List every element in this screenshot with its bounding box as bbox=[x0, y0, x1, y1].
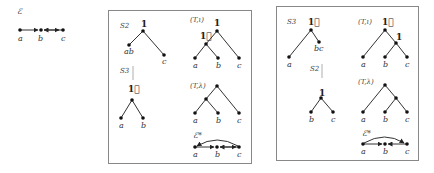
node-label: c bbox=[237, 150, 242, 159]
leaf-label: a bbox=[193, 61, 198, 70]
tree-root-label: 1⃗ bbox=[128, 84, 140, 94]
node-label: c bbox=[405, 147, 410, 156]
tree-title: (T,ι) bbox=[358, 18, 372, 26]
step-label: S3 bbox=[287, 18, 297, 26]
tree-root-label: 1 bbox=[141, 19, 147, 29]
leaf-label: b bbox=[309, 115, 314, 124]
node-label: b bbox=[383, 147, 388, 156]
tree-root-label: 1⃗ bbox=[308, 17, 320, 27]
panel-border bbox=[277, 7, 419, 161]
node-label: a bbox=[361, 147, 366, 156]
graph-title: ℰ bbox=[17, 7, 23, 16]
left-graph: ℰ a b c bbox=[17, 7, 66, 43]
leaf-label: a bbox=[361, 60, 366, 69]
leaf-label: bc bbox=[314, 44, 324, 53]
step-label: S2 bbox=[120, 22, 130, 30]
substep-label: S3 bbox=[120, 67, 130, 75]
leaf-label: a bbox=[361, 115, 366, 124]
leaf-label: b bbox=[216, 61, 221, 70]
leaf-label: b bbox=[216, 116, 221, 125]
leaf-label: c bbox=[237, 61, 242, 70]
tree-title: (T,λ) bbox=[190, 82, 206, 90]
leaf-label: a bbox=[119, 121, 124, 130]
leaf-label: b bbox=[141, 121, 146, 130]
leaf-label: a bbox=[287, 60, 292, 69]
panel-2: S3 1⃗ a bc S2 1 b c (T,ι) 1⃗ 1 a b bbox=[277, 7, 419, 161]
tree-root-label: 1 bbox=[214, 18, 220, 28]
node-label: c bbox=[61, 34, 66, 43]
tree-title: (T,ι) bbox=[190, 16, 204, 24]
leaf-label: c bbox=[331, 115, 336, 124]
leaf-label: c bbox=[405, 60, 410, 69]
panel-1: S2 1 ab c S3 1⃗ a b (T,ι) 1 1⃗ a b bbox=[109, 11, 252, 164]
tree-root-label: 1⃗ bbox=[382, 17, 394, 27]
leaf-label: a bbox=[193, 116, 198, 125]
diagram-canvas: ℰ a b c S2 1 ab c S3 1⃗ a b bbox=[0, 0, 434, 173]
node-label: a bbox=[18, 34, 23, 43]
leaf-label: c bbox=[237, 116, 242, 125]
leaf-label: b bbox=[383, 60, 388, 69]
leaf-label: b bbox=[383, 115, 388, 124]
closure-title: ℰ* bbox=[193, 131, 202, 140]
tree-title: (T,λ) bbox=[358, 78, 374, 86]
node-label: b bbox=[215, 150, 220, 159]
tree-inner-label: 1 bbox=[396, 32, 402, 42]
leaf-label: c bbox=[405, 115, 410, 124]
closure-title: ℰ* bbox=[362, 129, 371, 138]
substep-label: S2 bbox=[310, 65, 320, 73]
leaf-label: c bbox=[162, 57, 167, 66]
node-label: b bbox=[38, 34, 43, 43]
tree-root-label: 1 bbox=[319, 88, 325, 98]
leaf-label: ab bbox=[124, 47, 134, 56]
node-label: a bbox=[193, 150, 198, 159]
